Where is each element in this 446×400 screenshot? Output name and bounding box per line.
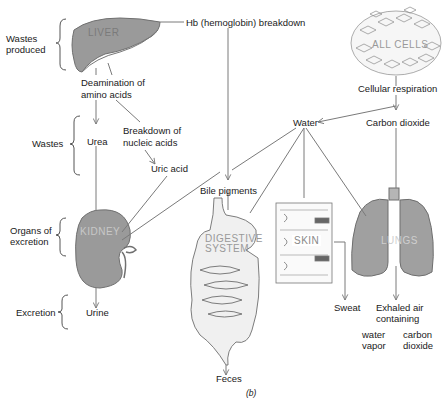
kidney-label: KIDNEY xyxy=(80,226,120,237)
cellular-respiration-label: Cellular respiration xyxy=(358,83,437,94)
breakdown-label-2: nucleic acids xyxy=(123,137,177,148)
exhaled-air-label-2: containing xyxy=(376,313,419,324)
bracket-wastes xyxy=(70,116,80,175)
skin-label: SKIN xyxy=(292,235,321,246)
digestive-label-2: SYSTEM xyxy=(205,243,249,254)
label-wastes: Wastes xyxy=(32,138,63,149)
bile-pigments-label: Bile pigments xyxy=(200,185,257,196)
label-wastes-produced: Wastes produced xyxy=(6,33,60,55)
water-label: Water xyxy=(293,117,318,128)
water-vapor-label-2: vapor xyxy=(362,340,386,351)
carbon-dioxide-label: Carbon dioxide xyxy=(366,117,430,128)
co2-label-2: dioxide xyxy=(403,340,433,351)
lungs-label: LUNGS xyxy=(381,235,418,246)
figure-label: (b) xyxy=(246,388,256,399)
digestive-system-icon xyxy=(191,198,259,365)
exhaled-air-label-1: Exhaled air xyxy=(376,302,424,313)
kidney-icon xyxy=(76,210,136,288)
sweat-label: Sweat xyxy=(334,302,360,313)
liver-label: LIVER xyxy=(88,27,119,38)
uric-acid-label: Uric acid xyxy=(151,163,188,174)
co2-label-1: carbon xyxy=(403,329,432,340)
deamination-label-2: amino acids xyxy=(81,89,132,100)
water-vapor-label-1: water xyxy=(362,329,385,340)
feces-label: Feces xyxy=(216,373,242,384)
urea-label: Urea xyxy=(87,136,108,147)
all-cells-label: ALL CELLS xyxy=(372,39,428,50)
label-excretion: Excretion xyxy=(16,307,56,318)
deamination-label-1: Deamination of xyxy=(81,77,145,88)
hb-breakdown-label: Hb (hemoglobin) breakdown xyxy=(186,17,305,28)
lungs-icon xyxy=(352,188,434,276)
label-organs-of-excretion: Organs of excretion xyxy=(10,225,60,247)
urine-label: Urine xyxy=(86,307,109,318)
breakdown-label-1: Breakdown of xyxy=(123,125,181,136)
bracket-excretion xyxy=(58,295,68,329)
